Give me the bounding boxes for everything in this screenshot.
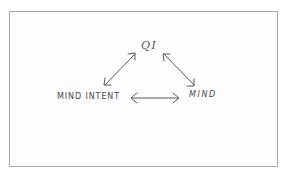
arrow-mind-intent-mind xyxy=(131,93,179,103)
arrow-mind-intent-qi xyxy=(104,53,135,85)
node-label-mind: MIND xyxy=(189,91,217,99)
arrows-layer xyxy=(0,0,295,179)
arrow-qi-mind xyxy=(163,54,194,86)
node-label-qi: QI xyxy=(141,40,157,51)
node-label-mind-intent: MIND INTENT xyxy=(57,93,120,101)
